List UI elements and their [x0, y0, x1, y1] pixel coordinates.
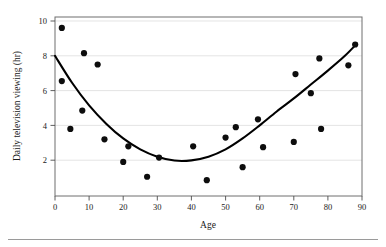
y-tick-label-6: 6	[43, 86, 47, 96]
data-point	[204, 177, 210, 183]
gridlines	[55, 21, 362, 160]
data-point	[260, 144, 266, 150]
data-point	[101, 136, 107, 142]
data-point	[95, 61, 101, 67]
x-axis-ticks	[55, 196, 362, 201]
y-tick-label-2: 2	[43, 155, 47, 165]
x-axis-tick-labels: 0 10 20 30 40 50 60 70 80 90	[53, 202, 366, 212]
data-points	[59, 25, 359, 183]
data-point	[222, 134, 228, 140]
data-point	[352, 41, 358, 47]
footer-divider	[8, 239, 378, 240]
data-point	[156, 154, 162, 160]
x-tick-label-90: 90	[358, 202, 367, 212]
data-point	[59, 78, 65, 84]
data-point	[233, 124, 239, 130]
x-tick-label-70: 70	[290, 202, 299, 212]
data-point	[79, 108, 85, 114]
x-tick-label-80: 80	[324, 202, 333, 212]
data-point	[255, 116, 261, 122]
fitted-curve	[55, 44, 357, 161]
data-point	[120, 159, 126, 165]
data-point	[59, 25, 65, 31]
y-tick-label-4: 4	[43, 121, 48, 131]
x-tick-label-20: 20	[119, 202, 128, 212]
x-tick-label-40: 40	[187, 202, 196, 212]
data-point	[291, 139, 297, 145]
x-tick-label-30: 30	[153, 202, 162, 212]
x-tick-label-60: 60	[255, 202, 264, 212]
data-point	[316, 55, 322, 61]
data-point	[308, 90, 314, 96]
y-axis-title: Daily television viewing (hr)	[12, 51, 23, 161]
data-point	[240, 164, 246, 170]
data-point	[144, 174, 150, 180]
x-tick-label-10: 10	[85, 202, 94, 212]
data-point	[292, 71, 298, 77]
scatter-chart-figure: 10 8 6 4 2 0 10 20 30 40 50 60	[0, 0, 386, 247]
y-tick-label-8: 8	[43, 51, 47, 61]
data-point	[125, 143, 131, 149]
data-point	[345, 62, 351, 68]
x-tick-label-50: 50	[221, 202, 230, 212]
data-point	[318, 126, 324, 132]
chart-canvas: 10 8 6 4 2 0 10 20 30 40 50 60	[0, 0, 386, 247]
y-axis-ticks	[51, 21, 56, 160]
plot-frame	[55, 17, 362, 196]
data-point	[67, 126, 73, 132]
y-tick-label-10: 10	[39, 16, 48, 26]
y-axis-tick-labels: 10 8 6 4 2	[39, 16, 48, 165]
x-tick-label-0: 0	[53, 202, 57, 212]
data-point	[190, 143, 196, 149]
x-axis-title: Age	[200, 220, 216, 230]
data-point	[81, 50, 87, 56]
